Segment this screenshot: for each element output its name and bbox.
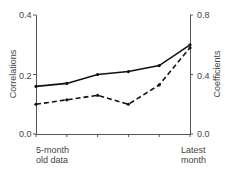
left-tick-0.4: 0.4 bbox=[19, 10, 32, 20]
x-tick-last-line1: Latest bbox=[181, 145, 206, 155]
left-tick-0.2: 0.2 bbox=[19, 71, 32, 81]
x-tick-last-line2: month bbox=[181, 155, 206, 165]
coefficients-line bbox=[36, 48, 190, 105]
left-tick-0.0: 0.0 bbox=[19, 129, 32, 139]
right-tick-0.0: 0.0 bbox=[197, 129, 210, 139]
correlations-line bbox=[36, 45, 190, 87]
right-tick-0.4: 0.4 bbox=[197, 71, 210, 81]
right-tick-0.8: 0.8 bbox=[197, 10, 210, 20]
x-tick-first-line2: old data bbox=[36, 155, 68, 165]
right-axis-label: Coefficients bbox=[212, 44, 222, 104]
chart: 0.4 0.2 0.0 0.8 0.4 0.0 Correlations Coe… bbox=[0, 0, 225, 171]
x-tick-first-line1: 5-month bbox=[36, 145, 69, 155]
left-axis-label: Correlations bbox=[8, 44, 18, 104]
